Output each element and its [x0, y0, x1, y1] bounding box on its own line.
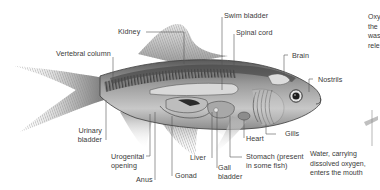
label-spinal-cord: Spinal cord — [236, 28, 273, 37]
label-urogenital-line1: Urogenital — [111, 152, 144, 161]
dorsal-fin — [138, 24, 228, 64]
side-top-line1: Oxy — [368, 12, 380, 22]
label-gills: Gills — [285, 129, 299, 138]
label-brain: Brain — [292, 51, 309, 60]
label-stomach-line2: in some fish) — [246, 161, 304, 170]
label-urinary-bladder-line1: Urinary — [76, 126, 102, 135]
label-gall-bladder-line2: bladder — [218, 172, 242, 181]
side-top-line3: was — [368, 31, 380, 41]
label-stomach: Stomach (present in some fish) — [246, 152, 304, 170]
label-anus: Anus — [136, 175, 153, 184]
label-urogenital-opening: Urogenital opening — [111, 152, 144, 170]
label-urinary-bladder: Urinary bladder — [76, 126, 102, 144]
label-stomach-line1: Stomach (present — [246, 152, 304, 161]
side-top-line4: rele — [368, 41, 380, 51]
label-gonad: Gonad — [175, 171, 197, 180]
label-liver: Liver — [190, 153, 206, 162]
label-swim-bladder: Swim bladder — [224, 11, 268, 20]
label-urinary-bladder-line2: bladder — [76, 135, 102, 144]
side-panel-bottom-text: Water, carrying dissolved oxygen, enters… — [310, 149, 366, 178]
side-bottom-line2: dissolved oxygen, — [310, 159, 366, 169]
label-gall-bladder-line1: Gall — [218, 163, 242, 172]
side-top-line2: the — [368, 22, 380, 32]
label-gall-bladder: Gall bladder — [218, 163, 242, 181]
tail-fin — [14, 66, 104, 132]
side-gill-sketch — [364, 110, 378, 146]
label-heart: Heart — [246, 134, 264, 143]
label-nostrils: Nostrils — [318, 75, 342, 84]
side-bottom-line1: Water, carrying — [310, 149, 366, 159]
side-bottom-line3: enters the mouth — [310, 168, 366, 178]
side-panel-top-text: Oxy the was rele — [368, 12, 380, 50]
label-vertebral-column: Vertebral column — [56, 49, 111, 58]
label-urogenital-line2: opening — [111, 161, 144, 170]
label-kidney: Kidney — [118, 27, 140, 36]
